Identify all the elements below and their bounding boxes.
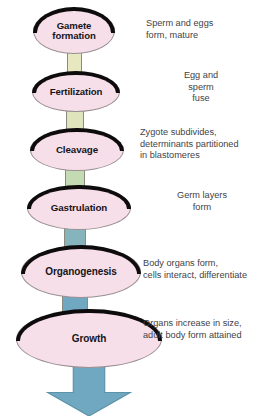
stage-description-fertilization: Egg and sperm fuse <box>146 70 256 105</box>
stage-description-gastrulation: Germ layers form <box>146 190 258 213</box>
stage-oval-gamete-formation: Gamete formation <box>33 8 115 54</box>
stage-label-cleavage: Cleavage <box>56 145 98 156</box>
development-stages-diagram: Gamete formationSperm and eggs form, mat… <box>0 0 271 418</box>
stage-label-gamete-formation: Gamete formation <box>52 21 95 42</box>
stage-oval-organogenesis: Organogenesis <box>21 246 141 298</box>
stage-description-gamete-formation: Sperm and eggs form, mature <box>146 18 264 41</box>
stage-label-organogenesis: Organogenesis <box>45 267 117 278</box>
connector-gamete-to-fertilization <box>67 52 82 74</box>
stage-oval-growth: Growth <box>16 310 162 368</box>
stage-oval-gastrulation: Gastrulation <box>27 186 131 230</box>
stage-oval-fertilization: Fertilization <box>32 72 120 112</box>
stage-label-fertilization: Fertilization <box>50 87 103 97</box>
stage-description-organogenesis: Body organs form, cells interact, differ… <box>143 258 271 281</box>
stage-label-gastrulation: Gastrulation <box>51 203 108 214</box>
connector-fertilization-to-cleavage <box>66 110 84 131</box>
stage-description-cleavage: Zygote subdivides, determinants partitio… <box>140 127 270 162</box>
stage-label-growth: Growth <box>72 334 106 345</box>
growth-outcome-arrow <box>40 360 138 416</box>
connector-gastrulation-to-organogenesis <box>64 228 86 248</box>
stage-oval-cleavage: Cleavage <box>30 129 124 171</box>
stage-description-growth: Organs increase in size, adult body form… <box>143 318 271 341</box>
